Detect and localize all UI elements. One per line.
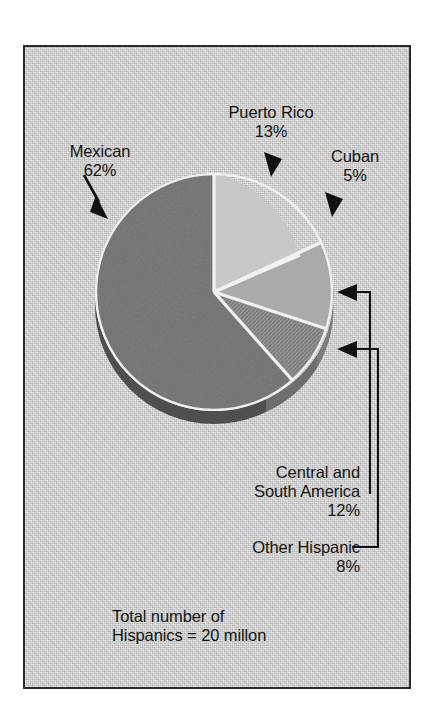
pie-label-central-south-america: Central and South America 12%: [198, 463, 360, 520]
pie-label-mexican: Mexican 62%: [38, 142, 162, 180]
figure-root: Mexican 62% Puerto Rico 13% Cuban 5% Cen…: [0, 0, 436, 724]
chart-total-note: Total number of Hispanics = 20 millon: [112, 607, 342, 645]
pie-label-puerto-rico: Puerto Rico 13%: [196, 103, 346, 141]
pie-label-cuban: Cuban 5%: [302, 147, 408, 185]
pie-label-other-hispanic: Other Hispanic 8%: [178, 538, 360, 576]
